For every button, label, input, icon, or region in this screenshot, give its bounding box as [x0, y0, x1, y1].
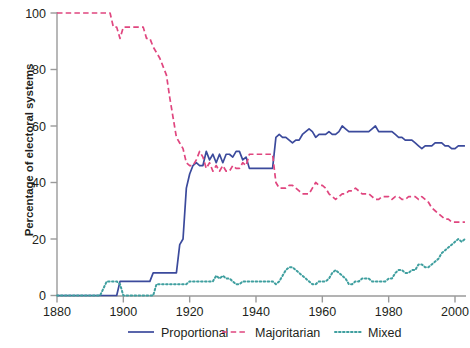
y-tick-label: 80 [32, 63, 46, 77]
x-axis-tick-group: 1880190019201940196019802000 [43, 296, 469, 319]
series-line-majoritarian [57, 13, 465, 222]
chart-figure: Percentage of electoral systems 02040608… [0, 0, 470, 348]
x-tick-label: 2000 [441, 305, 469, 319]
chart-legend: ProportionalMajoritarianMixed [128, 326, 401, 340]
legend-label-mixed[interactable]: Mixed [368, 326, 401, 340]
x-tick-label: 1980 [375, 305, 403, 319]
y-axis-tick-group: 020406080100 [25, 7, 57, 304]
legend-label-proportional[interactable]: Proportional [161, 326, 228, 340]
x-tick-label: 1960 [308, 305, 336, 319]
x-tick-label: 1940 [242, 305, 270, 319]
x-tick-label: 1880 [43, 305, 71, 319]
line-chart-svg: 020406080100 188019001920194019601980200… [0, 0, 470, 348]
y-tick-label: 100 [25, 7, 46, 21]
data-series-group [57, 13, 465, 296]
legend-label-majoritarian[interactable]: Majoritarian [255, 326, 320, 340]
series-line-proportional [57, 126, 465, 296]
y-tick-label: 60 [32, 120, 46, 134]
x-tick-label: 1900 [109, 305, 137, 319]
y-tick-label: 40 [32, 176, 46, 190]
y-tick-label: 20 [32, 233, 46, 247]
x-tick-label: 1920 [176, 305, 204, 319]
y-tick-label: 0 [39, 289, 46, 303]
